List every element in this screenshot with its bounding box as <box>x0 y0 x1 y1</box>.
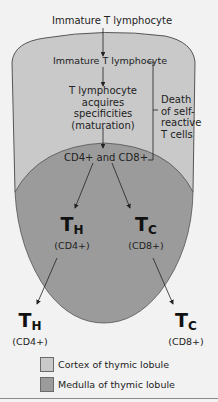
exit-tc-marker: (CD8+) <box>166 336 206 347</box>
maturation-line-4: (maturation) <box>62 120 144 132</box>
cortex-swatch <box>40 357 54 372</box>
exit-tc-cell: TC (CD8+) <box>166 310 206 347</box>
tc-sub: C <box>148 223 157 237</box>
medulla-th-cell: TH (CD4+) <box>52 214 92 251</box>
tc-marker: (CD8+) <box>126 240 166 251</box>
maturation-line-3: specificities <box>62 108 144 120</box>
bottom-divider <box>0 398 218 399</box>
th-main: T <box>60 213 73 235</box>
cortex-label: Immature T lymphocyte <box>53 55 167 67</box>
exit-tc-main: T <box>175 309 188 331</box>
top-label: Immature T lymphocyte <box>52 15 172 27</box>
maturation-label: T lymphocyte acquires specificities (mat… <box>62 85 144 131</box>
death-line-4: T cells <box>161 129 201 141</box>
death-label: Death of self- reactive T cells <box>161 94 201 140</box>
tc-main: T <box>135 213 148 235</box>
death-line-1: Death <box>161 94 201 106</box>
death-line-2: of self- <box>161 106 201 118</box>
th-sub: H <box>73 223 83 237</box>
exit-tc-sub: C <box>188 319 197 333</box>
legend-label-cortex: Cortex of thymic lobule <box>58 359 169 370</box>
medulla-region <box>15 143 193 323</box>
double-positive-label: CD4+ and CD8+ <box>64 152 148 164</box>
exit-th-sub: H <box>31 319 41 333</box>
legend-item-medulla: Medulla of thymic lobule <box>40 374 175 394</box>
exit-th-cell: TH (CD4+) <box>10 310 50 347</box>
exit-th-main: T <box>18 309 31 331</box>
exit-th-marker: (CD4+) <box>10 336 50 347</box>
maturation-line-2: acquires <box>62 97 144 109</box>
maturation-line-1: T lymphocyte <box>62 85 144 97</box>
th-marker: (CD4+) <box>52 240 92 251</box>
legend-item-cortex: Cortex of thymic lobule <box>40 354 175 374</box>
medulla-swatch <box>40 377 54 392</box>
death-line-3: reactive <box>161 117 201 129</box>
legend-label-medulla: Medulla of thymic lobule <box>58 379 175 390</box>
legend: Cortex of thymic lobule Medulla of thymi… <box>40 354 175 394</box>
medulla-tc-cell: TC (CD8+) <box>126 214 166 251</box>
